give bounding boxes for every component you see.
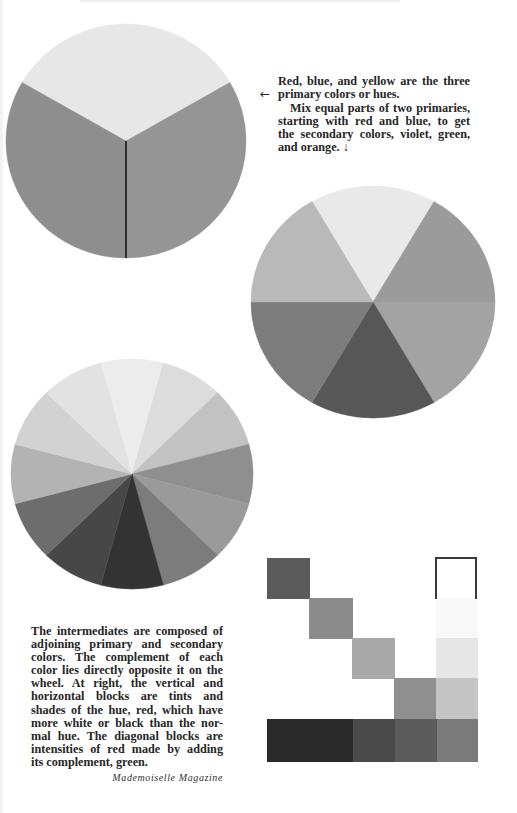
- shade-block: [395, 719, 437, 762]
- caption-line-text: primary colors or hues.: [278, 87, 400, 101]
- tint-block: [436, 598, 478, 639]
- caption-primary-secondary: Red, blue, and yellow are the three ← pr…: [278, 75, 470, 155]
- caption-line: starting with red and blue, to get: [278, 115, 470, 128]
- intensity-block: [352, 638, 395, 679]
- intensity-block: [309, 598, 353, 639]
- caption-line: shades of the hue, red, which have: [31, 704, 223, 717]
- caption-line: intensities of red made by adding: [31, 743, 223, 756]
- tint-block: [436, 678, 478, 719]
- caption-line: Red, blue, and yellow are the three: [278, 75, 470, 88]
- caption-intermediates: The intermediates are composed of adjoin…: [31, 625, 223, 769]
- caption-line: horizontal blocks are tints and: [31, 690, 223, 703]
- caption-line: the secondary colors, violet, green,: [278, 128, 470, 141]
- caption-line: mal hue. The diagonal blocks are: [31, 730, 223, 743]
- arrow-left-icon: ←: [260, 88, 270, 101]
- intensity-block: [267, 558, 310, 599]
- caption-line: ← primary colors or hues.: [278, 88, 470, 101]
- caption-line: more white or black than the nor-: [31, 717, 223, 730]
- caption-line: its complement, green.: [31, 756, 223, 769]
- shade-block: [267, 719, 353, 762]
- caption-line: Mix equal parts of two primaries,: [278, 102, 470, 115]
- caption-line: and orange. ↓: [278, 141, 470, 154]
- intensity-block: [394, 678, 437, 719]
- pure-hue-outline-box: [435, 557, 477, 599]
- shade-block: [437, 719, 478, 762]
- source-credit: Mademoiselle Magazine: [31, 772, 223, 783]
- tint-block: [436, 638, 478, 679]
- shade-block: [353, 719, 395, 762]
